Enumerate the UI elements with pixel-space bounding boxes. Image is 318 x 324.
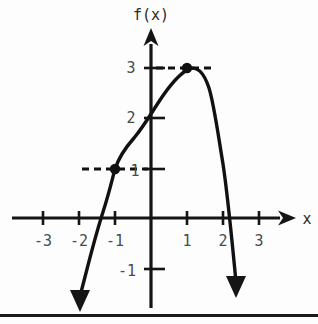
- left-branch-arrow-icon: [70, 290, 90, 312]
- x-tick-label-neg3: -3: [34, 232, 52, 250]
- function-curve: [80, 68, 236, 296]
- y-tick-label-neg1: -1: [118, 262, 136, 280]
- point-marker-maximum: [182, 63, 192, 73]
- y-axis-title: f(x): [133, 6, 169, 24]
- x-axis-title: x: [302, 210, 311, 228]
- x-tick-labels: -3 -2 -1 1 2 3: [34, 232, 264, 250]
- bottom-border-rule: [0, 314, 318, 317]
- y-tick-label-2: 2: [126, 109, 135, 127]
- y-tick-label-3: 3: [126, 59, 135, 77]
- x-tick-label-1: 1: [182, 232, 191, 250]
- plot-canvas: -3 -2 -1 1 2 3 3 2 1 -1 f(x) x: [0, 0, 318, 324]
- point-marker-inflection: [110, 164, 120, 174]
- y-tick-label-1: 1: [130, 162, 139, 180]
- x-tick-label-neg2: -2: [70, 232, 88, 250]
- x-axis-arrow-icon: [278, 211, 296, 226]
- y-axis-arrow-icon: [144, 28, 159, 46]
- function-graph-figure: -3 -2 -1 1 2 3 3 2 1 -1 f(x) x: [0, 0, 318, 324]
- x-axis-group: [12, 211, 296, 226]
- x-tick-label-neg1: -1: [106, 232, 124, 250]
- x-tick-label-3: 3: [254, 232, 263, 250]
- x-tick-label-2: 2: [218, 232, 227, 250]
- right-branch-arrow-icon: [226, 276, 246, 298]
- function-curve-group: [70, 68, 246, 312]
